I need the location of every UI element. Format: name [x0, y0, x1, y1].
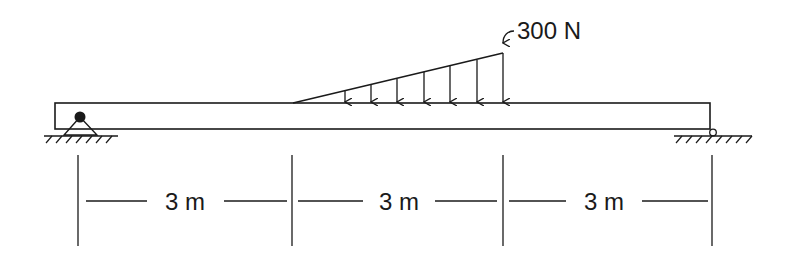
roller-support-icon [674, 129, 752, 143]
distributed-load [293, 53, 503, 103]
beam-diagram: 300 N 3 m 3 m 3 m [0, 0, 785, 263]
dimension-label-3: 3 m [584, 188, 624, 215]
load-label: 300 N [517, 17, 581, 44]
beam [55, 103, 710, 129]
load-label-leader [503, 31, 514, 43]
dimension-label-1: 3 m [165, 188, 205, 215]
dimension-label-2: 3 m [379, 188, 419, 215]
